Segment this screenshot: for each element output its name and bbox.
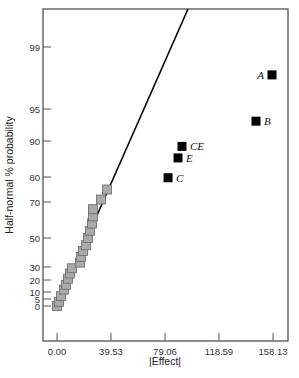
x-axis-title: |Effect| bbox=[149, 355, 181, 367]
point-label: CE bbox=[190, 140, 204, 152]
y-tick-label: 70 bbox=[29, 197, 40, 208]
point-label: B bbox=[264, 115, 271, 127]
data-point-c bbox=[164, 173, 173, 182]
y-tick-label: 20 bbox=[29, 275, 40, 286]
y-tick-label: 10 bbox=[29, 287, 40, 298]
y-tick-label: 80 bbox=[29, 172, 40, 183]
y-tick-label: 30 bbox=[29, 262, 40, 273]
x-axis-ticks: 0.0039.5379.06118.59158.13 bbox=[48, 333, 288, 357]
data-point bbox=[96, 195, 105, 204]
data-point-e bbox=[174, 153, 183, 162]
data-point-a bbox=[268, 70, 277, 79]
x-tick-label: 158.13 bbox=[258, 346, 287, 357]
x-tick-label: 118.59 bbox=[205, 346, 233, 357]
y-tick-label: 95 bbox=[29, 104, 40, 115]
y-tick-label: 90 bbox=[29, 136, 40, 147]
y-axis-ticks: 05102030507080909599 bbox=[29, 42, 51, 312]
data-point bbox=[102, 185, 111, 194]
y-tick-label: 99 bbox=[29, 42, 40, 53]
significant-points: ABCEEC bbox=[164, 69, 277, 184]
y-tick-label: 50 bbox=[29, 233, 40, 244]
half-normal-plot: 0.0039.5379.06118.59158.13 0510203050708… bbox=[0, 0, 299, 378]
point-label: E bbox=[185, 152, 193, 164]
data-point-b bbox=[252, 117, 261, 126]
point-label: A bbox=[256, 69, 264, 81]
y-axis-title: Half-normal % probability bbox=[3, 116, 15, 234]
insignificant-points bbox=[53, 185, 112, 311]
point-label: C bbox=[176, 172, 184, 184]
data-point bbox=[89, 205, 98, 214]
x-tick-label: 0.00 bbox=[48, 346, 67, 357]
data-point-ce bbox=[177, 142, 186, 151]
x-tick-label: 39.53 bbox=[99, 346, 123, 357]
